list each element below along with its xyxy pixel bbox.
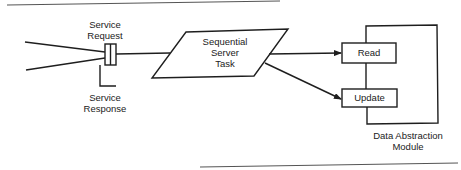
client-line-2 (26, 58, 105, 70)
update-label: Update (342, 92, 397, 103)
client-line-1 (25, 42, 105, 52)
arrow-to-read (269, 53, 341, 54)
top-rule (7, 1, 280, 5)
task-label-line1: Sequential (195, 36, 255, 47)
diagram-canvas: Service Request Service Response Sequent… (0, 0, 461, 170)
data-abstraction-module-label: Data Abstraction Module (368, 130, 448, 152)
task-label-line2: Server (195, 47, 255, 58)
read-label: Read (342, 47, 396, 58)
service-response-label-line2: Response (80, 103, 130, 114)
module-label-line1: Data Abstraction (368, 130, 448, 141)
task-label-line3: Task (195, 58, 255, 69)
sequential-server-task-label: Sequential Server Task (195, 36, 255, 69)
service-response-label-line1: Service (80, 92, 130, 103)
service-request-label-line1: Service (80, 19, 130, 30)
response-line (100, 65, 116, 86)
data-abstraction-module-shape (366, 25, 438, 124)
service-request-label: Service Request (80, 19, 130, 41)
service-request-label-line2: Request (80, 30, 130, 41)
connector-to-task-line (116, 53, 170, 54)
arrow-to-update (265, 63, 341, 99)
module-label-line2: Module (368, 141, 448, 152)
service-response-label: Service Response (80, 92, 130, 114)
bottom-rule (200, 163, 458, 167)
service-connector (105, 44, 116, 65)
